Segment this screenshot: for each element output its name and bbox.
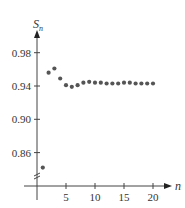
y-axis-label: Sn	[33, 17, 43, 33]
data-point	[128, 81, 132, 85]
x-tick-label: 10	[90, 191, 102, 203]
data-point	[93, 81, 97, 85]
data-point	[81, 81, 85, 85]
x-axis-arrow-icon	[164, 183, 172, 189]
y-tick-label: 0.94	[12, 80, 32, 92]
data-point	[145, 81, 149, 85]
y-tick-label: 0.86	[12, 147, 32, 159]
chart: Sn n 0.980.940.900.86 5101520	[0, 0, 185, 208]
data-point	[47, 71, 51, 75]
data-point	[99, 81, 103, 85]
data-point	[87, 80, 91, 84]
y-tick-label: 0.90	[12, 113, 32, 125]
data-point	[76, 83, 80, 87]
data-point	[116, 81, 120, 85]
data-point	[64, 83, 68, 87]
data-point	[105, 81, 109, 85]
x-axis-label: n	[175, 179, 181, 193]
y-ticks: 0.980.940.900.86	[12, 47, 40, 159]
data-point	[134, 81, 138, 85]
x-tick-label: 15	[119, 191, 131, 203]
data-point	[110, 81, 114, 85]
data-point	[122, 81, 126, 85]
data-points	[41, 66, 155, 169]
data-point	[139, 81, 143, 85]
y-tick-label: 0.98	[12, 47, 32, 59]
data-point	[151, 81, 155, 85]
data-point	[58, 76, 62, 80]
x-tick-label: 20	[148, 191, 160, 203]
data-point	[41, 165, 45, 169]
x-tick-label: 5	[63, 191, 69, 203]
data-point	[70, 85, 74, 89]
data-point	[52, 66, 56, 70]
